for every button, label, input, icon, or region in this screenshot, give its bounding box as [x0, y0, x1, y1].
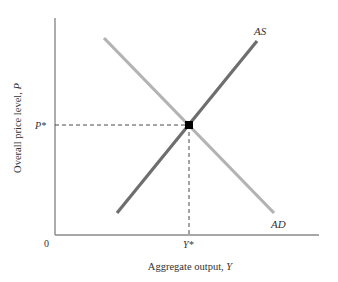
- equilibrium-point: [185, 121, 193, 129]
- ad-as-chart: AS AD P* Y* 0 Aggregate output, Y Overal…: [0, 0, 338, 282]
- p-star-label: P*: [34, 120, 46, 131]
- x-axis-title: Aggregate output, Y: [148, 261, 233, 272]
- y-star-label: Y*: [183, 239, 194, 250]
- y-axis-title: Overall price level, P: [12, 83, 23, 173]
- ad-label: AD: [270, 218, 286, 230]
- as-label: AS: [253, 25, 267, 37]
- origin-label: 0: [44, 238, 49, 249]
